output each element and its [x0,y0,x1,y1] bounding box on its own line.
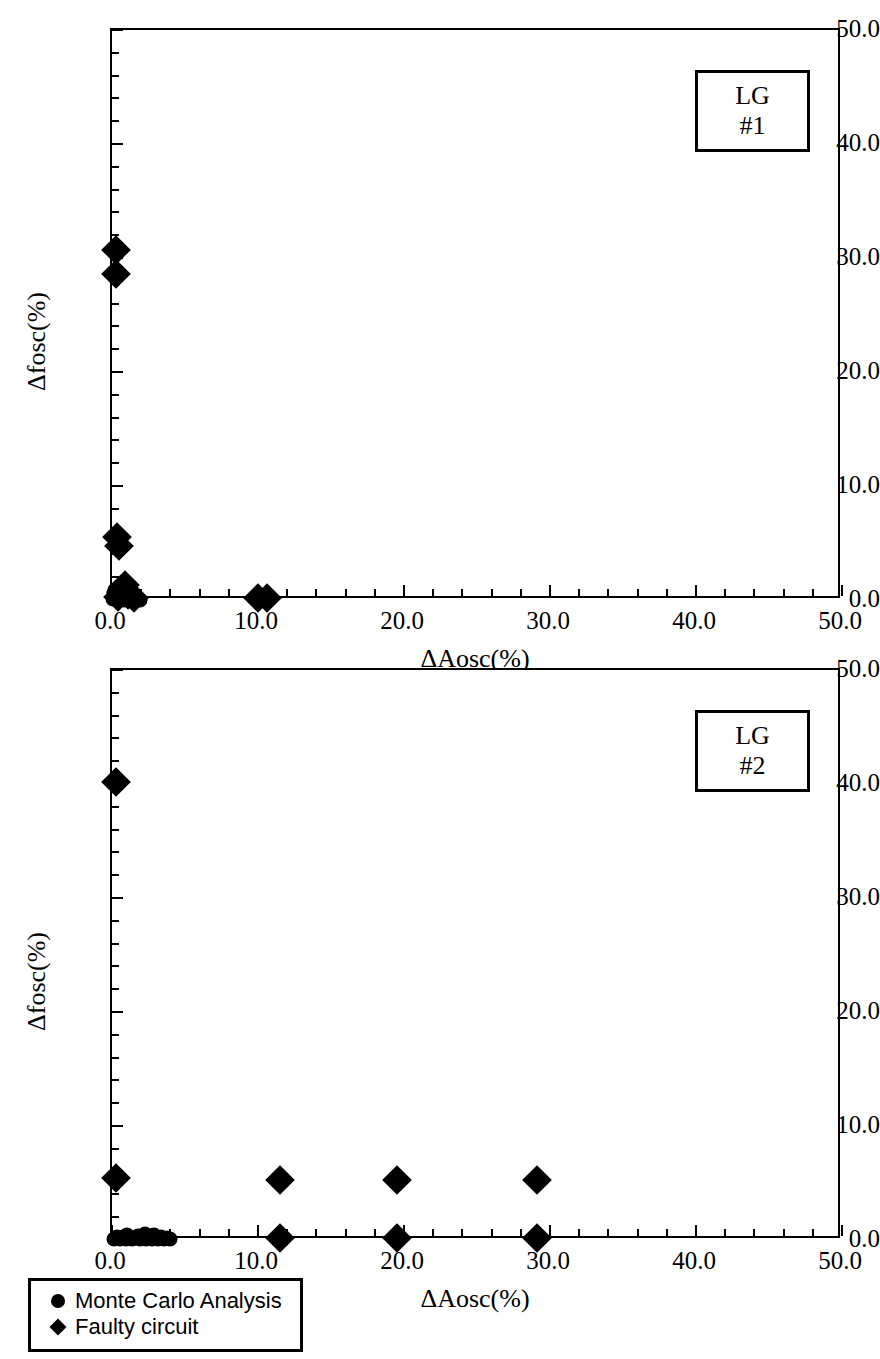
figure: LG #1 ΔAosc(%) Δfosc(%) 0.010.020.030.04… [0,0,880,1359]
x-axis-minor-tick [374,589,376,596]
panel-id-label: LG #2 [735,721,770,780]
y-axis-minor-tick [112,303,119,305]
x-axis-minor-tick [520,1229,522,1236]
x-axis-title-lg2: ΔAosc(%) [420,1284,529,1314]
x-axis-minor-tick [724,589,726,596]
x-axis-tick-label: 20.0 [380,1248,424,1273]
x-axis-minor-tick [637,1229,639,1236]
y-axis-minor-tick [112,348,119,350]
x-axis-tick-label: 30.0 [526,1248,570,1273]
y-axis-title-lg2: Δfosc(%) [22,932,52,1031]
x-axis-minor-tick [199,1229,201,1236]
x-axis-minor-tick [286,589,288,596]
x-axis-tick [695,585,697,596]
y-axis-minor-tick [112,1079,119,1081]
data-point-monte-carlo [162,1231,177,1246]
y-axis-tick [112,371,123,373]
y-axis-minor-tick [112,760,119,762]
y-axis-minor-tick [112,1034,119,1036]
x-axis-minor-tick [432,1229,434,1236]
y-axis-tick [112,669,123,671]
x-axis-tick-label: 10.0 [234,1248,278,1273]
x-axis-minor-tick [666,589,668,596]
x-axis-minor-tick [607,1229,609,1236]
y-axis-minor-tick [112,417,119,419]
x-axis-minor-tick [315,1229,317,1236]
x-axis-tick [403,585,405,596]
y-axis-minor-tick [112,988,119,990]
y-axis-minor-tick [112,508,119,510]
y-axis-minor-tick [112,943,119,945]
y-axis-minor-tick [112,829,119,831]
x-axis-tick-label: 20.0 [380,608,424,633]
x-axis-minor-tick [345,589,347,596]
x-axis-tick-label: 0.0 [94,608,125,633]
x-axis-tick [695,1225,697,1236]
y-axis-tick-label: 40.0 [782,130,880,155]
y-axis-tick [112,1125,123,1127]
y-axis-minor-tick [112,737,119,739]
x-axis-minor-tick [578,589,580,596]
x-axis-minor-tick [199,589,201,596]
x-axis-tick [549,585,551,596]
legend-entry-faulty-circuit: Faulty circuit [45,1314,282,1340]
y-axis-minor-tick [112,439,119,441]
y-axis-tick-label: 20.0 [782,358,880,383]
x-axis-minor-tick [520,589,522,596]
data-point-faulty-circuit [265,1165,295,1195]
x-axis-minor-tick [169,589,171,596]
y-axis-minor-tick [112,189,119,191]
diamond-marker-icon [45,1321,71,1333]
y-axis-tick-label: 10.0 [782,1112,880,1137]
x-axis-minor-tick [666,1229,668,1236]
chart-panel-lg1: LG #1 ΔAosc(%) Δfosc(%) 0.010.020.030.04… [0,0,880,650]
x-axis-minor-tick [753,1229,755,1236]
y-axis-tick [112,897,123,899]
x-axis-minor-tick [637,589,639,596]
y-axis-minor-tick [112,120,119,122]
panel-id-label: LG #1 [735,81,770,140]
x-axis-minor-tick [374,1229,376,1236]
data-point-faulty-circuit [102,767,132,797]
chart-panel-lg2: LG #2 ΔAosc(%) Δfosc(%) 0.010.020.030.04… [0,640,880,1300]
x-axis-tick [549,1225,551,1236]
x-axis-minor-tick [461,1229,463,1236]
y-axis-minor-tick [112,1148,119,1150]
data-point-monte-carlo [120,1227,135,1242]
y-axis-tick-label: 50.0 [782,16,880,41]
data-point-monte-carlo [146,1227,161,1242]
x-axis-tick-label: 10.0 [234,608,278,633]
y-axis-tick [112,485,123,487]
x-axis-tick-label: 40.0 [672,608,716,633]
data-point-faulty-circuit [522,1165,552,1195]
y-axis-minor-tick [112,1057,119,1059]
y-axis-tick [112,1011,123,1013]
y-axis-tick-label: 30.0 [782,884,880,909]
y-axis-minor-tick [112,1193,119,1195]
x-axis-tick [257,1225,259,1236]
y-axis-minor-tick [112,965,119,967]
y-axis-minor-tick [112,1102,119,1104]
x-axis-minor-tick [315,589,317,596]
y-axis-minor-tick [112,874,119,876]
y-axis-minor-tick [112,715,119,717]
x-axis-minor-tick [724,1229,726,1236]
y-axis-minor-tick [112,394,119,396]
legend-entry-monte-carlo: Monte Carlo Analysis [45,1288,282,1314]
x-axis-tick-label: 30.0 [526,608,570,633]
y-axis-minor-tick [112,806,119,808]
x-axis-tick-label: 50.0 [818,1248,862,1273]
x-axis-tick-label: 40.0 [672,1248,716,1273]
x-axis-minor-tick [228,589,230,596]
x-axis-minor-tick [461,589,463,596]
x-axis-minor-tick [491,589,493,596]
y-axis-tick-label: 20.0 [782,998,880,1023]
x-axis-minor-tick [578,1229,580,1236]
y-axis-minor-tick [112,920,119,922]
y-axis-tick [112,29,123,31]
y-axis-minor-tick [112,52,119,54]
legend-label: Faulty circuit [71,1316,198,1338]
x-axis-minor-tick [753,589,755,596]
y-axis-minor-tick [112,211,119,213]
data-point-faulty-circuit [102,259,132,289]
